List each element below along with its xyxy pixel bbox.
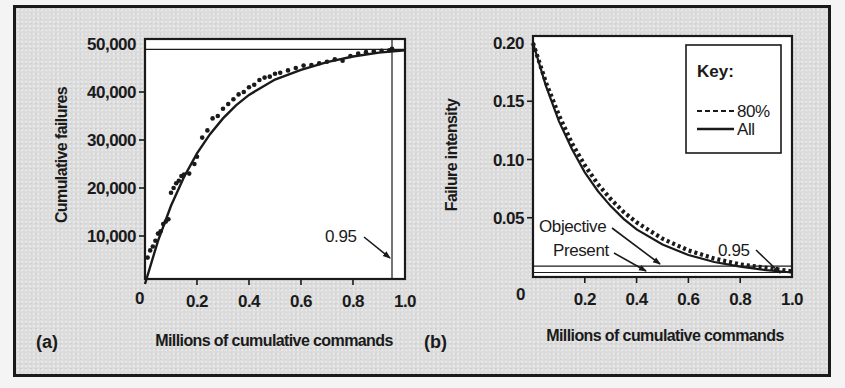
data-point <box>205 128 210 133</box>
data-point <box>262 75 267 80</box>
y-tick-label: 0.15 <box>493 92 524 111</box>
chart-b-x-ticks: 0.20.40.60.81.0 <box>574 277 803 309</box>
chart-b: 0.050.100.150.20 0.20.40.60.81.0 0 Failu… <box>424 34 803 352</box>
chart-b-x-axis-title: Millions of cumulative commands <box>546 327 784 344</box>
x-tick-label: 0.4 <box>238 292 261 311</box>
data-point <box>294 66 299 71</box>
data-point <box>257 78 262 83</box>
y-tick-label: 0.20 <box>493 34 524 53</box>
data-point <box>145 255 150 260</box>
chart-b-annotation-objective: Objective <box>539 217 606 236</box>
x-tick-label: 0.4 <box>626 290 649 309</box>
data-point <box>200 135 205 140</box>
chart-b-legend: Key: 80% All <box>686 45 781 153</box>
chart-a-y-ticks: 10,00020,00030,00040,00050,000 <box>87 35 145 246</box>
data-point <box>171 186 176 191</box>
data-point <box>252 83 257 88</box>
x-tick-label: 0.6 <box>677 290 699 309</box>
chart-b-y-ticks: 0.050.100.150.20 <box>493 34 533 228</box>
y-tick-label: 30,000 <box>87 131 136 150</box>
data-point <box>242 90 247 95</box>
y-tick-label: 50,000 <box>87 35 136 54</box>
chart-a: 10,00020,00030,00040,00050,000 0.20.40.6… <box>36 35 416 352</box>
chart-b-legend-dashed-label: 80% <box>737 102 770 121</box>
data-point <box>148 248 153 253</box>
data-point <box>169 191 174 196</box>
x-tick-label: 0.8 <box>729 290 751 309</box>
chart-a-annotation-095: 0.95 <box>325 227 357 246</box>
data-point <box>216 114 221 119</box>
y-tick-label: 40,000 <box>87 83 136 102</box>
data-point <box>268 74 273 79</box>
chart-b-annotation-095: 0.95 <box>718 241 750 260</box>
data-point <box>226 102 231 107</box>
data-point <box>278 71 283 76</box>
x-tick-label: 0.6 <box>290 292 312 311</box>
data-point <box>151 244 156 249</box>
data-point <box>286 68 291 73</box>
chart-a-panel-label: (a) <box>36 332 58 352</box>
y-tick-label: 20,000 <box>87 179 136 198</box>
data-point <box>210 116 215 121</box>
chart-b-y-axis-title: Failure intensity <box>443 98 460 211</box>
chart-b-annotation-present: Present <box>553 241 609 260</box>
x-tick-label: 1.0 <box>394 292 416 311</box>
chart-b-panel-label: (b) <box>424 332 447 352</box>
y-tick-label: 0.10 <box>493 151 524 170</box>
chart-b-origin-label: 0 <box>516 285 525 304</box>
y-tick-label: 0.05 <box>493 209 524 228</box>
x-tick-label: 0.2 <box>186 292 208 311</box>
data-point <box>273 71 278 76</box>
data-point <box>301 63 306 68</box>
chart-a-origin-label: 0 <box>135 289 144 308</box>
data-point <box>221 107 226 112</box>
data-point <box>247 85 252 90</box>
x-tick-label: 0.8 <box>342 292 364 311</box>
x-tick-label: 0.2 <box>574 290 596 309</box>
y-tick-label: 10,000 <box>87 227 136 246</box>
data-point <box>236 92 241 97</box>
chart-b-legend-title: Key: <box>697 62 734 81</box>
x-tick-label: 1.0 <box>781 290 803 309</box>
chart-a-x-axis-title: Millions of cumulative commands <box>155 332 393 349</box>
chart-a-y-axis-title: Cumulative failures <box>53 86 70 223</box>
figure-svg: 10,00020,00030,00040,00050,000 0.20.40.6… <box>0 0 845 388</box>
chart-a-x-ticks: 0.20.40.60.81.0 <box>186 279 416 311</box>
chart-b-legend-solid-label: All <box>737 120 755 139</box>
data-point <box>231 97 236 102</box>
